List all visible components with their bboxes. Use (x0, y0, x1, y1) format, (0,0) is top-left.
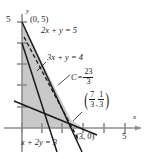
y-tick-label-5: 5 (6, 15, 11, 24)
open-paren: ( (84, 90, 88, 109)
objective-equals-sign: = (78, 73, 83, 82)
objective-symbol: C (71, 73, 77, 82)
x-axis-label: x (133, 114, 136, 121)
equation-label-line2: 3x + y = 4 (47, 53, 83, 62)
point-label-0-5: (0, 5) (30, 15, 48, 24)
equation-label-line3: x + 2y = 3 (21, 138, 57, 147)
objective-numerator: 23 (83, 68, 93, 76)
linear-programming-figure: y x 5 5 (0, 5) (3, 0) 2x + y = 5 3x + y … (0, 0, 147, 159)
vertex-y-denominator: 3 (98, 101, 104, 109)
x-tick-label-5: 5 (122, 132, 127, 141)
y-axis-label: y (26, 8, 29, 15)
objective-value-label: C = 23 3 (71, 68, 93, 86)
objective-fraction: 23 3 (83, 68, 93, 86)
vertex-y-numerator: 1 (98, 91, 104, 99)
objective-denominator: 3 (85, 78, 91, 86)
leader-line-objective (58, 75, 70, 85)
x-axis-arrow (135, 125, 141, 130)
vertex-coordinate-label: ( 7 3 , 1 3 ) (83, 90, 111, 109)
vertex-y-fraction: 1 3 (98, 91, 104, 109)
equation-label-line1: 2x + y = 5 (41, 26, 77, 35)
close-paren: ) (106, 90, 110, 109)
leader-line-vertex (73, 112, 82, 121)
vertex-x-numerator: 7 (89, 91, 95, 99)
point-label-3-0: (3, 0) (76, 132, 94, 141)
